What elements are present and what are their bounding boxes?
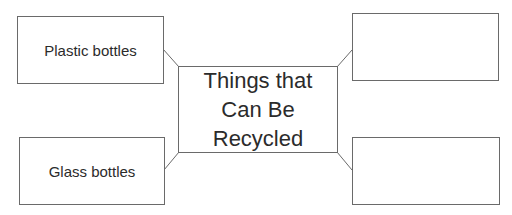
connector-top-left: [163, 49, 179, 67]
center-node: Things that Can Be Recycled: [178, 66, 338, 153]
node-top-left: Plastic bottles: [17, 16, 164, 84]
connector-bottom-right: [337, 152, 352, 170]
node-label: Plastic bottles: [44, 42, 137, 59]
center-label: Things that Can Be Recycled: [185, 66, 331, 153]
connector-top-right: [337, 50, 352, 67]
node-bottom-right: [352, 137, 500, 205]
node-label: Glass bottles: [49, 163, 136, 180]
connector-bottom-left: [164, 152, 179, 170]
node-top-right: [352, 13, 499, 81]
node-bottom-left: Glass bottles: [19, 137, 165, 205]
